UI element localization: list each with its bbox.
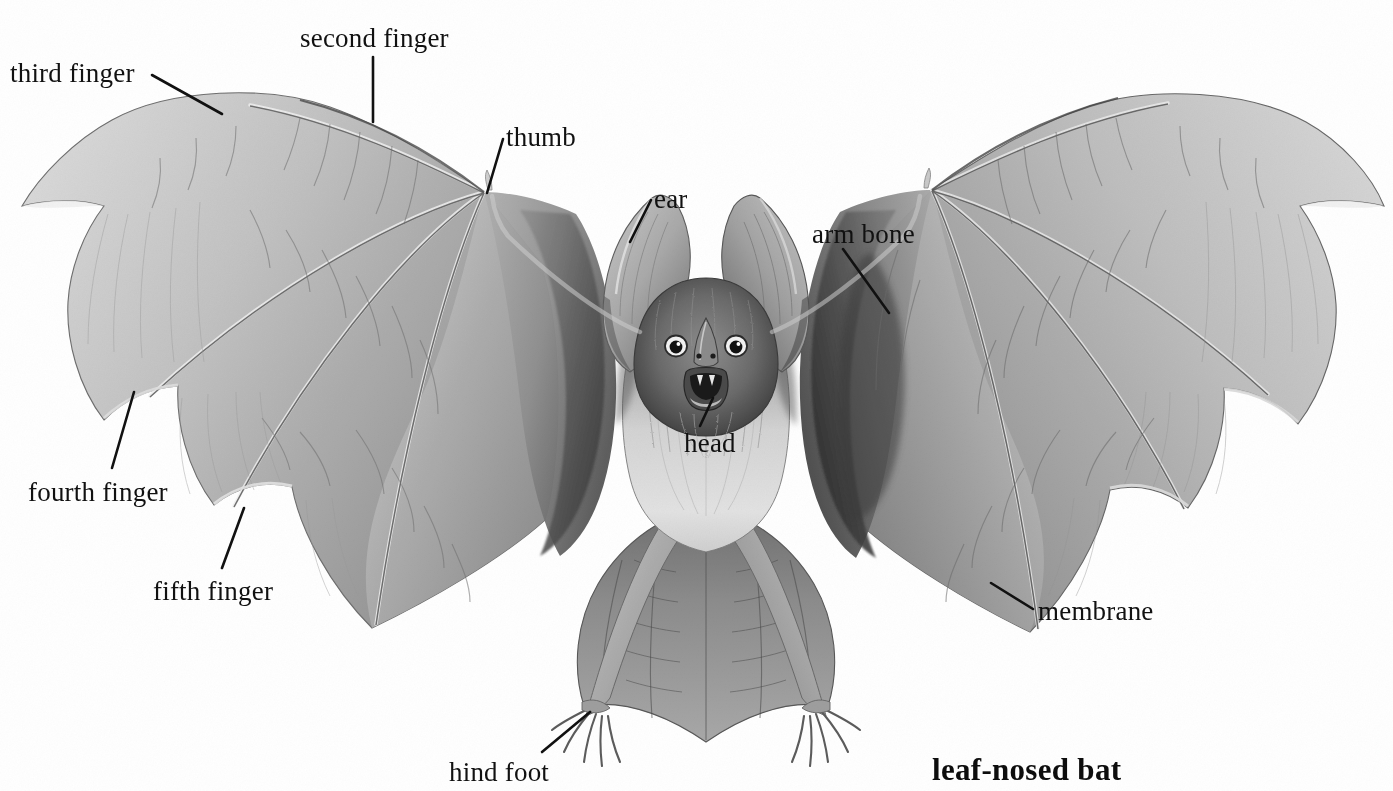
figure-title: leaf-nosed bat — [932, 752, 1121, 788]
label-arm-bone: arm bone — [812, 221, 915, 248]
label-membrane: membrane — [1038, 598, 1154, 625]
label-fourth-finger: fourth finger — [28, 479, 168, 506]
leaf-nosed-bat-illustration — [0, 0, 1393, 791]
illustration-canvas: third finger second finger thumb ear arm… — [0, 0, 1393, 791]
label-fifth-finger: fifth finger — [153, 578, 273, 605]
label-second-finger: second finger — [300, 25, 449, 52]
label-hind-foot: hind foot — [449, 759, 549, 786]
label-third-finger: third finger — [10, 60, 135, 87]
label-ear: ear — [654, 186, 688, 213]
label-head: head — [684, 430, 736, 457]
label-thumb: thumb — [506, 124, 576, 151]
